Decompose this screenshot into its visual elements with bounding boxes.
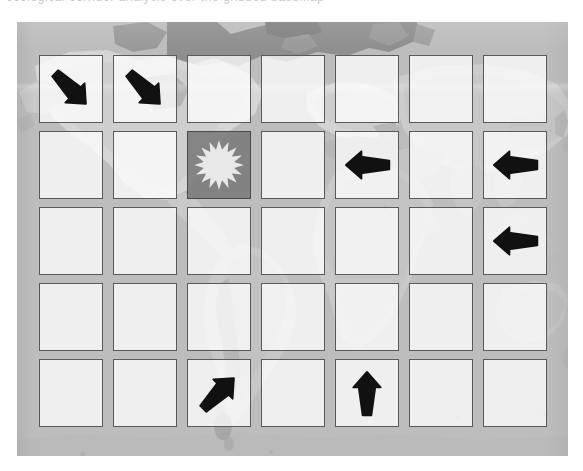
grid-row: Empty cellEmpty cellSunburst origin mark… <box>39 131 547 199</box>
grid-cell-r4-c6[interactable]: Empty cell <box>409 283 473 351</box>
grid-cell-label: Empty cell <box>367 241 368 242</box>
grid-cell-label: Empty cell <box>515 89 516 90</box>
grid-cell-r4-c7[interactable]: Empty cell <box>483 283 547 351</box>
arrow-up-right-icon <box>188 360 250 426</box>
grid-cell-r3-c2[interactable]: Empty cell <box>113 207 177 275</box>
grid-cell-r2-c5[interactable]: Arrow pointing left <box>335 131 399 199</box>
world-map-panel: Arrow pointing down-rightArrow pointing … <box>17 22 568 456</box>
grid-cell-r4-c5[interactable]: Empty cell <box>335 283 399 351</box>
grid-cell-label: Empty cell <box>219 317 220 318</box>
grid-cell-r5-c5[interactable]: Arrow pointing up <box>335 359 399 427</box>
grid-row: Empty cellEmpty cellArrow pointing up-ri… <box>39 359 547 427</box>
grid-row: Arrow pointing down-rightArrow pointing … <box>39 55 547 123</box>
grid-row: Empty cellEmpty cellEmpty cellEmpty cell… <box>39 207 547 275</box>
grid-cell-label: Empty cell <box>293 89 294 90</box>
grid-cell-label: Empty cell <box>71 241 72 242</box>
grid-cell-label: Empty cell <box>219 89 220 90</box>
grid-cell-label: Empty cell <box>515 317 516 318</box>
grid-cell-label: Empty cell <box>441 241 442 242</box>
grid-cell-r1-c2[interactable]: Arrow pointing down-right <box>113 55 177 123</box>
top-text-sliver-label: ecological corridor analysis over the gr… <box>6 0 325 4</box>
sunburst-icon <box>188 132 250 198</box>
arrow-left-icon <box>336 132 398 198</box>
grid-cell-label: Empty cell <box>71 317 72 318</box>
grid-cell-r5-c7[interactable]: Empty cell <box>483 359 547 427</box>
grid-cell-r4-c4[interactable]: Empty cell <box>261 283 325 351</box>
grid-row: Empty cellEmpty cellEmpty cellEmpty cell… <box>39 283 547 351</box>
grid-cell-r4-c3[interactable]: Empty cell <box>187 283 251 351</box>
grid-cell-label: Empty cell <box>367 89 368 90</box>
grid-cell-r4-c1[interactable]: Empty cell <box>39 283 103 351</box>
grid-cell-r5-c4[interactable]: Empty cell <box>261 359 325 427</box>
arrow-down-right-icon <box>40 56 102 122</box>
grid-cell-r3-c3[interactable]: Empty cell <box>187 207 251 275</box>
grid-cell-label: Empty cell <box>71 165 72 166</box>
grid-cell-r5-c1[interactable]: Empty cell <box>39 359 103 427</box>
grid-cell-r4-c2[interactable]: Empty cell <box>113 283 177 351</box>
grid-cell-r3-c4[interactable]: Empty cell <box>261 207 325 275</box>
grid-cell-label: Empty cell <box>145 393 146 394</box>
arrow-left-icon <box>484 208 546 274</box>
grid-cell-label: Empty cell <box>145 317 146 318</box>
cell-grid: Arrow pointing down-rightArrow pointing … <box>39 55 547 428</box>
grid-cell-r2-c4[interactable]: Empty cell <box>261 131 325 199</box>
arrow-down-right-icon <box>114 56 176 122</box>
grid-cell-r1-c6[interactable]: Empty cell <box>409 55 473 123</box>
grid-cell-label: Empty cell <box>219 241 220 242</box>
grid-cell-r3-c7[interactable]: Arrow pointing left <box>483 207 547 275</box>
grid-cell-r2-c6[interactable]: Empty cell <box>409 131 473 199</box>
grid-cell-label: Empty cell <box>293 393 294 394</box>
arrow-left-icon <box>484 132 546 198</box>
grid-cell-label: Empty cell <box>441 317 442 318</box>
grid-cell-r2-c3[interactable]: Sunburst origin marker <box>187 131 251 199</box>
grid-cell-r3-c5[interactable]: Empty cell <box>335 207 399 275</box>
grid-cell-r5-c3[interactable]: Arrow pointing up-right <box>187 359 251 427</box>
grid-cell-r2-c7[interactable]: Arrow pointing left <box>483 131 547 199</box>
grid-cell-r5-c6[interactable]: Empty cell <box>409 359 473 427</box>
grid-cell-label: Empty cell <box>441 89 442 90</box>
grid-cell-label: Empty cell <box>71 393 72 394</box>
grid-cell-label: Empty cell <box>293 165 294 166</box>
grid-cell-label: Empty cell <box>441 393 442 394</box>
grid-cell-label: Empty cell <box>441 165 442 166</box>
grid-cell-r2-c1[interactable]: Empty cell <box>39 131 103 199</box>
grid-cell-r3-c1[interactable]: Empty cell <box>39 207 103 275</box>
grid-cell-label: Empty cell <box>145 241 146 242</box>
grid-cell-r1-c7[interactable]: Empty cell <box>483 55 547 123</box>
arrow-up-icon <box>336 360 398 426</box>
grid-cell-r5-c2[interactable]: Empty cell <box>113 359 177 427</box>
top-text-sliver: ecological corridor analysis over the gr… <box>0 0 583 9</box>
grid-cell-r1-c1[interactable]: Arrow pointing down-right <box>39 55 103 123</box>
grid-cell-label: Empty cell <box>293 317 294 318</box>
grid-cell-r1-c5[interactable]: Empty cell <box>335 55 399 123</box>
grid-cell-r2-c2[interactable]: Empty cell <box>113 131 177 199</box>
grid-cell-r1-c4[interactable]: Empty cell <box>261 55 325 123</box>
grid-cell-label: Empty cell <box>145 165 146 166</box>
grid-cell-label: Empty cell <box>293 241 294 242</box>
grid-cell-r3-c6[interactable]: Empty cell <box>409 207 473 275</box>
grid-cell-r1-c3[interactable]: Empty cell <box>187 55 251 123</box>
grid-cell-label: Empty cell <box>367 317 368 318</box>
grid-cell-label: Empty cell <box>515 393 516 394</box>
